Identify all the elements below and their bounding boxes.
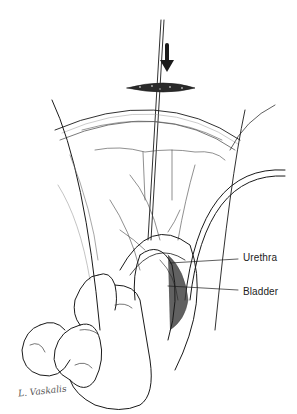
surgical-illustration [0,0,297,414]
retropubic-tissue [95,148,225,270]
label-urethra: Urethra [243,252,277,263]
label-bladder: Bladder [243,286,278,297]
skin-incision [127,83,195,92]
vaginal-dissection [120,234,197,370]
needle [148,20,164,240]
abdominal-wall [52,100,275,330]
catheter [185,170,285,300]
